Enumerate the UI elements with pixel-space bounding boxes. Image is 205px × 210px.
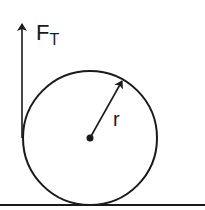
diagram-canvas: FT r xyxy=(0,0,205,210)
force-label: F xyxy=(36,20,49,45)
force-subscript: T xyxy=(49,31,59,48)
radius-label: r xyxy=(113,108,120,130)
svg-text:FT: FT xyxy=(36,20,59,48)
rolling-cylinder-diagram: FT r xyxy=(0,0,205,210)
